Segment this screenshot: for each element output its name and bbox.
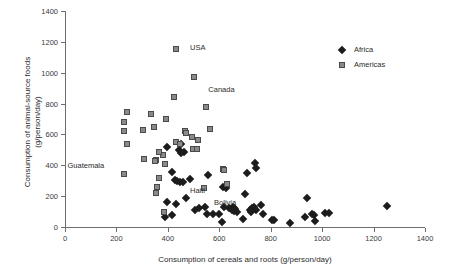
- data-point-americas: [161, 209, 167, 215]
- y-tick-1400: [61, 11, 65, 12]
- data-point-americas: [121, 119, 127, 125]
- data-point-americas: [121, 171, 127, 177]
- y-axis-title: Consumption of animal-source foods (g/pe…: [23, 27, 43, 217]
- x-tick-1200: [374, 228, 375, 232]
- x-tick-1400: [425, 228, 426, 232]
- data-point-africa: [218, 218, 226, 226]
- x-tick-1000: [322, 228, 323, 232]
- data-point-africa: [286, 218, 294, 226]
- data-point-americas: [152, 158, 158, 164]
- x-tick-0: [65, 228, 66, 232]
- annotation-guatemala: Guatemala: [68, 161, 105, 170]
- data-point-americas: [140, 127, 146, 133]
- data-point-africa: [252, 164, 260, 172]
- x-axis-title: Consumption of cereals and roots (g/pers…: [65, 255, 425, 264]
- y-axis-title-line2: (g/person/day): [33, 27, 43, 217]
- y-tick-0: [61, 227, 65, 228]
- data-point-americas: [151, 124, 157, 130]
- data-point-americas: [191, 74, 197, 80]
- data-point-africa: [186, 175, 194, 183]
- y-tick-label-0: 0: [30, 223, 58, 232]
- data-point-americas: [177, 141, 183, 147]
- y-tick-label-1400: 1400: [30, 7, 58, 16]
- data-point-americas: [124, 109, 130, 115]
- data-point-americas: [221, 167, 227, 173]
- y-tick-1200: [61, 42, 65, 43]
- x-tick-200: [116, 228, 117, 232]
- annotation-bolivia: Bolivia: [214, 198, 236, 207]
- data-point-americas: [207, 126, 213, 132]
- data-point-americas: [153, 190, 159, 196]
- x-tick-label-1400: 1400: [417, 234, 434, 243]
- y-tick-800: [61, 104, 65, 105]
- data-point-americas: [163, 116, 169, 122]
- data-point-americas: [156, 149, 162, 155]
- data-point-africa: [239, 215, 247, 223]
- data-point-africa: [167, 210, 175, 218]
- y-axis-title-line1: Consumption of animal-source foods: [23, 27, 33, 217]
- data-point-africa: [243, 168, 251, 176]
- data-point-americas: [173, 46, 179, 52]
- annotation-usa: USA: [190, 43, 205, 52]
- data-point-africa: [302, 194, 310, 202]
- data-point-africa: [215, 210, 223, 218]
- data-point-africa: [204, 171, 212, 179]
- scatter-chart: 0200400600800100012001400 02004006008001…: [0, 0, 449, 274]
- data-point-americas: [148, 111, 154, 117]
- x-tick-label-1200: 1200: [365, 234, 382, 243]
- legend-label: Africa: [354, 45, 373, 54]
- data-point-americas: [194, 146, 200, 152]
- x-tick-400: [168, 228, 169, 232]
- data-point-americas: [195, 137, 201, 143]
- data-point-americas: [121, 128, 127, 134]
- diamond-marker-icon: [338, 45, 350, 55]
- annotation-haiti: Haiti: [190, 186, 205, 195]
- square-marker-icon: [338, 60, 350, 70]
- x-tick-label-800: 800: [264, 234, 277, 243]
- x-tick-label-600: 600: [213, 234, 226, 243]
- data-point-americas: [141, 156, 147, 162]
- annotation-canada: Canada: [208, 85, 234, 94]
- x-tick-label-1000: 1000: [314, 234, 331, 243]
- y-tick-200: [61, 196, 65, 197]
- data-point-africa: [172, 199, 180, 207]
- data-point-africa: [163, 143, 171, 151]
- x-tick-label-400: 400: [162, 234, 175, 243]
- data-point-americas: [171, 94, 177, 100]
- data-point-americas: [224, 181, 230, 187]
- x-tick-600: [219, 228, 220, 232]
- legend-item-africa: Africa: [338, 42, 385, 57]
- x-axis-line: [65, 227, 425, 228]
- data-point-americas: [162, 161, 168, 167]
- legend-label: Americas: [354, 60, 385, 69]
- y-tick-400: [61, 165, 65, 166]
- data-point-americas: [156, 175, 162, 181]
- chart-legend: AfricaAmericas: [338, 42, 385, 72]
- data-point-africa: [383, 202, 391, 210]
- x-tick-800: [271, 228, 272, 232]
- data-point-africa: [163, 197, 171, 205]
- data-point-americas: [189, 134, 195, 140]
- legend-item-americas: Americas: [338, 57, 385, 72]
- data-point-africa: [241, 189, 249, 197]
- data-point-africa: [182, 193, 190, 201]
- y-tick-600: [61, 134, 65, 135]
- y-tick-1000: [61, 73, 65, 74]
- x-tick-label-0: 0: [63, 234, 67, 243]
- y-axis-line: [65, 11, 66, 227]
- data-point-americas: [124, 141, 130, 147]
- data-point-americas: [203, 104, 209, 110]
- data-point-africa: [259, 209, 267, 217]
- x-tick-label-200: 200: [110, 234, 123, 243]
